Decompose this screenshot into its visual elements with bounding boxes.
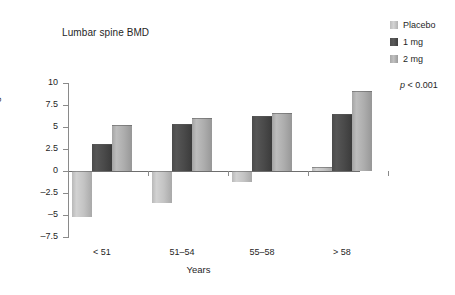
y-axis-line bbox=[68, 83, 69, 238]
bar-top-edge bbox=[272, 113, 292, 114]
y-tick-label: –2.5 bbox=[20, 187, 58, 197]
legend-item-dose1[interactable]: 1 mg bbox=[390, 33, 436, 50]
bar-placebo-2 bbox=[232, 171, 252, 182]
bar-top-edge bbox=[152, 171, 172, 172]
x-tick bbox=[388, 171, 389, 176]
x-axis-title-text: Years bbox=[187, 264, 211, 275]
bar-placebo-0 bbox=[72, 171, 92, 217]
bar-placebo-1 bbox=[152, 171, 172, 203]
y-tick-label: 2.5 bbox=[20, 143, 58, 153]
p-value-text: < 0.001 bbox=[405, 80, 438, 90]
zero-baseline bbox=[68, 171, 360, 172]
y-tick-label: 0 bbox=[20, 165, 58, 175]
chart-legend: Placebo1 mg2 mg bbox=[390, 16, 436, 67]
bar-1-mg-2 bbox=[252, 116, 272, 171]
chart-title: Lumbar spine BMD bbox=[62, 27, 149, 38]
bar-top-edge bbox=[112, 125, 132, 126]
y-tick-label: –7.5 bbox=[20, 231, 58, 241]
x-axis-title: Years bbox=[0, 264, 455, 275]
bar-2-mg-1 bbox=[192, 118, 212, 171]
bar-2-mg-3 bbox=[352, 91, 372, 171]
bar-1-mg-0 bbox=[92, 144, 112, 171]
bar-top-edge bbox=[232, 171, 252, 172]
y-tick bbox=[63, 83, 68, 84]
y-tick bbox=[63, 193, 68, 194]
y-tick-label: 7.5 bbox=[20, 99, 58, 109]
y-tick bbox=[63, 149, 68, 150]
y-tick bbox=[63, 215, 68, 216]
x-category-label: 55–58 bbox=[222, 247, 302, 257]
y-tick bbox=[63, 237, 68, 238]
legend-swatch-icon bbox=[390, 38, 398, 46]
bar-top-edge bbox=[72, 171, 92, 172]
x-category-label: > 58 bbox=[302, 247, 382, 257]
x-tick bbox=[308, 171, 309, 176]
x-category-label: < 51 bbox=[62, 247, 142, 257]
y-axis-title: % change bbox=[0, 92, 1, 134]
legend-item-label: 1 mg bbox=[403, 37, 423, 47]
y-tick-label: 10 bbox=[20, 77, 58, 87]
bar-top-edge bbox=[192, 118, 212, 119]
x-tick bbox=[228, 171, 229, 176]
x-tick bbox=[148, 171, 149, 176]
chart-figure: Lumbar spine BMD % change 107.552.50–2.5… bbox=[0, 0, 455, 295]
legend-item-placebo[interactable]: Placebo bbox=[390, 16, 436, 33]
y-tick bbox=[63, 105, 68, 106]
legend-item-label: 2 mg bbox=[403, 54, 423, 64]
p-value-annotation: p < 0.001 bbox=[400, 80, 438, 90]
legend-swatch-icon bbox=[390, 55, 398, 63]
x-category-label: 51–54 bbox=[142, 247, 222, 257]
bar-top-edge bbox=[92, 144, 112, 145]
y-tick-label: –5 bbox=[20, 209, 58, 219]
bar-1-mg-1 bbox=[172, 124, 192, 171]
x-tick bbox=[68, 171, 69, 176]
y-tick bbox=[63, 127, 68, 128]
y-tick-label: 5 bbox=[20, 121, 58, 131]
legend-item-label: Placebo bbox=[403, 20, 436, 30]
bar-top-edge bbox=[172, 124, 192, 125]
legend-swatch-icon bbox=[390, 21, 398, 29]
bar-placebo-3 bbox=[312, 167, 332, 171]
bar-2-mg-0 bbox=[112, 125, 132, 171]
bar-top-edge bbox=[352, 91, 372, 92]
bar-top-edge bbox=[252, 116, 272, 117]
bar-top-edge bbox=[312, 167, 332, 168]
legend-item-dose2[interactable]: 2 mg bbox=[390, 50, 436, 67]
bar-2-mg-2 bbox=[272, 113, 292, 171]
bar-1-mg-3 bbox=[332, 114, 352, 171]
bar-top-edge bbox=[332, 114, 352, 115]
